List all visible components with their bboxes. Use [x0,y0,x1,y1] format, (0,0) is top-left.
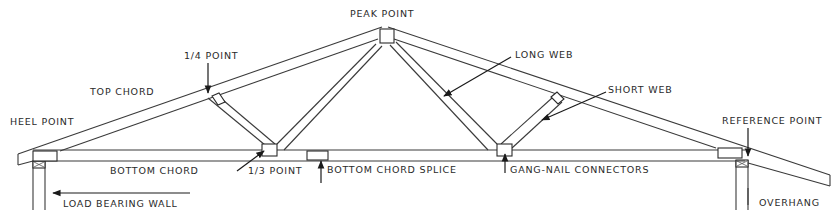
label-bottom-chord: BOTTOM CHORD [110,165,199,176]
right-heel-block [718,148,742,158]
bottom-chord [33,150,745,161]
splice-plate [307,151,328,160]
truss-diagram: PEAK POINT 1/4 POINT TOP CHORD HEEL POIN… [0,0,840,221]
peak-plate [380,29,394,43]
truss-svg: PEAK POINT 1/4 POINT TOP CHORD HEEL POIN… [0,0,840,221]
label-heel-point: HEEL POINT [10,116,74,127]
third-point-plate [262,144,277,156]
label-bottom-chord-splice: BOTTOM CHORD SPLICE [327,164,457,175]
leader-arrows [53,57,748,205]
labels: PEAK POINT 1/4 POINT TOP CHORD HEEL POIN… [10,8,822,209]
right-wall [736,160,748,210]
long-web-arrow [444,57,511,96]
label-short-web: SHORT WEB [608,84,673,95]
left-load-bearing-wall [33,161,45,210]
label-long-web: LONG WEB [515,49,573,60]
label-reference-point: REFERENCE POINT [722,115,822,126]
label-gang-nail-connectors: GANG-NAIL CONNECTORS [510,164,649,175]
label-quarter-point: 1/4 POINT [184,50,238,61]
left-heel-block [33,151,57,161]
label-third-point: 1/3 POINT [248,165,302,176]
label-peak-point: PEAK POINT [350,8,414,19]
top-chord-right [388,27,830,186]
label-load-bearing-wall: LOAD BEARING WALL [63,198,178,209]
label-top-chord: TOP CHORD [89,86,154,97]
label-overhang: OVERHANG [759,197,820,208]
top-chord-left [18,27,382,165]
